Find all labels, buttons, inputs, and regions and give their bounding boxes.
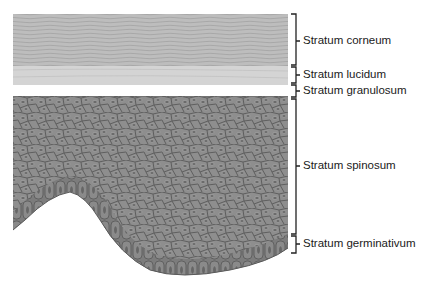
stratum-corneum-region (13, 14, 288, 66)
label-stratum-spinosum: Stratum spinosum (303, 160, 396, 172)
label-stratum-corneum: Stratum corneum (303, 35, 391, 47)
layer-brackets (291, 14, 300, 253)
label-stratum-granulosum: Stratum granulosum (303, 85, 407, 97)
label-stratum-germinativum: Stratum germinativum (303, 238, 415, 250)
label-stratum-lucidum: Stratum lucidum (303, 69, 386, 81)
